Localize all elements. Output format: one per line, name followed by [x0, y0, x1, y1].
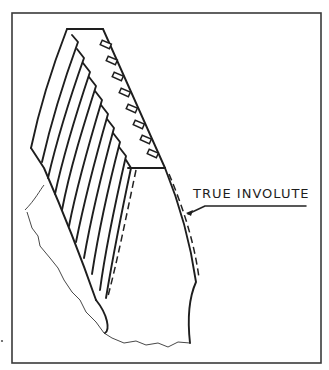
gear-tooth-diagram: TRUE INVOLUTE — [0, 0, 329, 370]
tooth-right-flank — [165, 168, 196, 343]
break-line-left — [25, 185, 104, 333]
involute-label: TRUE INVOLUTE — [192, 186, 310, 201]
involute-callout: TRUE INVOLUTE — [186, 186, 310, 216]
lamination-ribs — [42, 35, 136, 298]
root-fillet-left — [96, 300, 108, 333]
tooth-left-lower — [31, 148, 96, 300]
break-line-bottom — [104, 333, 190, 347]
leader-line — [188, 206, 306, 214]
stray-mark — [1, 340, 3, 342]
slot-notches — [100, 40, 158, 158]
tooth-slotted-edge — [103, 29, 165, 168]
leader-arrowhead — [186, 210, 193, 216]
gear-tooth — [25, 29, 199, 347]
